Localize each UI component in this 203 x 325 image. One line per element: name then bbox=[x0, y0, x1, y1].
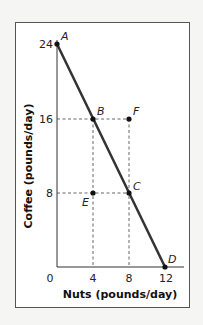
y-axis-title: Coffee (pounds/day) bbox=[22, 103, 35, 228]
x-tick-0: 0 bbox=[47, 272, 54, 285]
point-c bbox=[126, 190, 131, 195]
point-b bbox=[90, 116, 95, 121]
point-d bbox=[162, 264, 167, 269]
point-e bbox=[90, 190, 95, 195]
point-a bbox=[54, 41, 59, 46]
ppf-line bbox=[57, 44, 165, 267]
label-b: B bbox=[97, 105, 105, 118]
x-tick-12: 12 bbox=[159, 272, 173, 285]
y-tick-8: 8 bbox=[46, 187, 53, 200]
label-e: E bbox=[82, 196, 89, 209]
point-f bbox=[126, 116, 131, 121]
label-f: F bbox=[133, 105, 140, 118]
y-tick-16: 16 bbox=[39, 113, 53, 126]
x-axis-title: Nuts (pounds/day) bbox=[63, 288, 177, 301]
label-a: A bbox=[60, 30, 69, 43]
y-tick-24: 24 bbox=[39, 38, 53, 51]
x-tick-4: 4 bbox=[90, 272, 97, 285]
ppf-chart: A B C D E F 24 16 8 0 4 8 12 Nuts (pound… bbox=[0, 0, 203, 325]
x-tick-8: 8 bbox=[126, 272, 133, 285]
label-d: D bbox=[168, 253, 176, 266]
label-c: C bbox=[133, 180, 141, 193]
